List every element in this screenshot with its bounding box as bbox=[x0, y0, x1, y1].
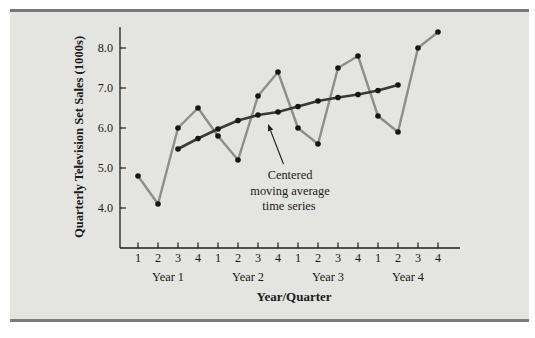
annotation-text-line1: Centered bbox=[268, 168, 314, 182]
year-label: Year 4 bbox=[392, 270, 424, 284]
sales-data-point bbox=[375, 113, 381, 119]
y-axis-ticks: 4.05.06.07.08.0 bbox=[98, 41, 126, 215]
sales-data-point bbox=[195, 105, 201, 111]
sales-data-point bbox=[275, 69, 281, 75]
y-axis-title: Quarterly Television Set Sales (1000s) bbox=[72, 36, 86, 238]
axes bbox=[120, 27, 460, 248]
sales-data-point bbox=[395, 129, 401, 135]
x-tick-label: 1 bbox=[295, 251, 301, 265]
year-labels: Year 1Year 2Year 3Year 4 bbox=[152, 270, 424, 284]
moving-average-line bbox=[178, 85, 398, 149]
sales-data-point bbox=[315, 141, 321, 147]
x-tick-label: 1 bbox=[375, 251, 381, 265]
cma-data-point bbox=[195, 136, 201, 142]
x-tick-label: 4 bbox=[435, 251, 441, 265]
cma-data-point bbox=[335, 95, 341, 101]
x-tick-label: 1 bbox=[215, 251, 221, 265]
x-axis-ticks: 1234123412341234 bbox=[135, 243, 441, 266]
y-tick-label: 4.0 bbox=[98, 201, 113, 215]
cma-data-point bbox=[315, 98, 321, 104]
annotation-arrowhead bbox=[268, 124, 273, 132]
x-tick-label: 2 bbox=[155, 251, 161, 265]
y-tick-label: 5.0 bbox=[98, 161, 113, 175]
figure-panel-stage: 4.05.06.07.08.0 1234123412341234 Year 1Y… bbox=[0, 0, 535, 338]
x-tick-label: 3 bbox=[255, 251, 261, 265]
annotation-arrow-line bbox=[271, 131, 284, 164]
x-tick-label: 2 bbox=[395, 251, 401, 265]
x-axis-title: Year/Quarter bbox=[256, 289, 331, 304]
sales-data-point bbox=[435, 29, 441, 35]
x-tick-label: 1 bbox=[135, 251, 141, 265]
y-tick-label: 8.0 bbox=[98, 41, 113, 55]
cma-data-point bbox=[175, 146, 181, 152]
sales-data-point bbox=[355, 53, 361, 59]
cma-data-point bbox=[395, 82, 401, 88]
x-tick-label: 2 bbox=[315, 251, 321, 265]
year-label: Year 3 bbox=[312, 270, 344, 284]
sales-data-point bbox=[295, 125, 301, 131]
x-tick-label: 4 bbox=[275, 251, 281, 265]
cma-data-point bbox=[215, 126, 221, 132]
x-tick-label: 2 bbox=[235, 251, 241, 265]
annotation-text-line2: moving average bbox=[250, 184, 330, 198]
sales-data-point bbox=[155, 201, 161, 207]
annotation-centered-moving-average: Centered moving average time series bbox=[250, 124, 330, 213]
cma-data-point bbox=[375, 88, 381, 94]
cma-data-point bbox=[255, 112, 261, 118]
sales-data-point bbox=[215, 133, 221, 139]
x-tick-label: 4 bbox=[195, 251, 201, 265]
year-label: Year 1 bbox=[152, 270, 184, 284]
cma-data-point bbox=[295, 104, 301, 110]
x-tick-label: 3 bbox=[335, 251, 341, 265]
year-label: Year 2 bbox=[232, 270, 264, 284]
sales-data-point bbox=[335, 65, 341, 71]
x-tick-label: 3 bbox=[175, 251, 181, 265]
cma-data-point bbox=[235, 118, 241, 124]
sales-data-point bbox=[175, 125, 181, 131]
sales-data-point bbox=[235, 157, 241, 163]
x-tick-label: 4 bbox=[355, 251, 361, 265]
cma-data-point bbox=[275, 109, 281, 115]
cma-data-point bbox=[355, 92, 361, 98]
sales-data-point bbox=[135, 173, 141, 179]
sales-data-point bbox=[415, 45, 421, 51]
x-tick-label: 3 bbox=[415, 251, 421, 265]
sales-data-point bbox=[255, 93, 261, 99]
time-series-chart: 4.05.06.07.08.0 1234123412341234 Year 1Y… bbox=[0, 0, 535, 338]
annotation-text-line3: time series bbox=[262, 199, 316, 213]
y-tick-label: 6.0 bbox=[98, 121, 113, 135]
y-tick-label: 7.0 bbox=[98, 81, 113, 95]
